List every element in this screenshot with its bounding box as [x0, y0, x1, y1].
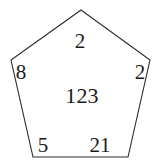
pentagon-label-bottom-left: 5	[38, 135, 49, 156]
pentagon-label-bottom-right: 21	[90, 135, 111, 156]
pentagon-label-top: 2	[75, 31, 86, 52]
pentagon-label-right: 2	[135, 62, 146, 83]
pentagon-figure: 2 8 2 5 21 123	[0, 0, 161, 168]
pentagon-label-left: 8	[16, 62, 27, 83]
pentagon-label-center: 123	[65, 85, 99, 107]
